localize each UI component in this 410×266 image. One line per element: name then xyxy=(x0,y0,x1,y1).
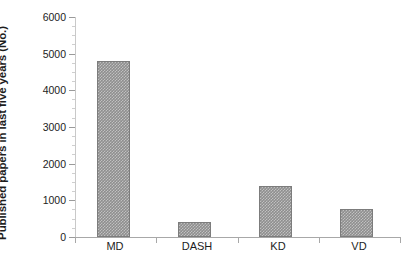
y-tick-label-3000: 3000 xyxy=(6,122,66,133)
plot-area xyxy=(75,17,400,237)
bar-dash[interactable] xyxy=(178,222,211,237)
y-axis-title: Published papers in last five years (No.… xyxy=(0,0,22,266)
bar-md[interactable] xyxy=(97,61,130,237)
bar-kd[interactable] xyxy=(259,186,292,237)
y-tick-label-1000: 1000 xyxy=(6,195,66,206)
x-tick xyxy=(400,238,401,243)
bar-chart: Published papers in last five years (No.… xyxy=(0,0,410,266)
y-tick-label-2000: 2000 xyxy=(6,159,66,170)
x-tick-label-md: MD xyxy=(75,241,155,252)
x-tick-label-dash: DASH xyxy=(157,241,237,252)
y-tick-label-6000: 6000 xyxy=(6,12,66,23)
x-tick-label-kd: KD xyxy=(238,241,318,252)
y-tick-label-5000: 5000 xyxy=(6,49,66,60)
bar-vd[interactable] xyxy=(340,209,373,237)
y-tick-label-4000: 4000 xyxy=(6,85,66,96)
y-tick-label-0: 0 xyxy=(6,232,66,243)
x-tick-label-vd: VD xyxy=(319,241,399,252)
